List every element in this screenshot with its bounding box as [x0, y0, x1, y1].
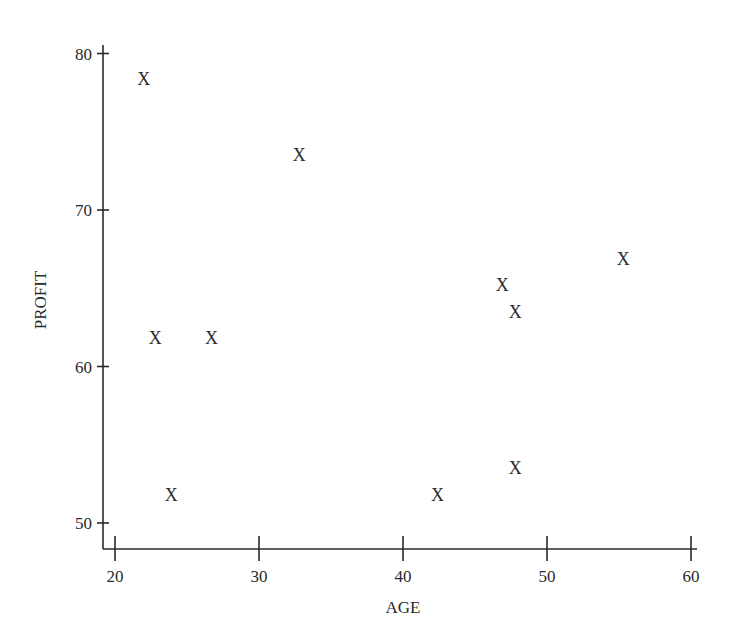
x-axis-label: AGE [386, 598, 421, 617]
data-point-marker: X [205, 328, 218, 348]
y-ticks: 50607080 [75, 45, 109, 534]
y-tick-label: 50 [75, 514, 92, 533]
scatter-chart: 50607080 2030405060 AGE PROFIT XXXXXXXXX… [0, 0, 736, 641]
data-point-marker: X [293, 145, 306, 165]
x-tick-label: 40 [395, 567, 412, 586]
data-point-marker: X [431, 485, 444, 505]
data-point-marker: X [509, 458, 522, 478]
data-point-marker: X [165, 485, 178, 505]
data-points: XXXXXXXXXX [137, 69, 630, 505]
data-point-marker: X [617, 249, 630, 269]
data-point-marker: X [137, 69, 150, 89]
axes [103, 45, 697, 549]
y-tick-label: 80 [75, 45, 92, 64]
x-tick-label: 20 [107, 567, 124, 586]
y-axis-label: PROFIT [31, 270, 50, 329]
data-point-marker: X [496, 275, 509, 295]
y-tick-label: 70 [75, 201, 92, 220]
x-tick-label: 30 [251, 567, 268, 586]
x-ticks: 2030405060 [107, 536, 700, 586]
data-point-marker: X [149, 328, 162, 348]
x-tick-label: 50 [539, 567, 556, 586]
data-point-marker: X [509, 302, 522, 322]
x-tick-label: 60 [683, 567, 700, 586]
y-tick-label: 60 [75, 358, 92, 377]
